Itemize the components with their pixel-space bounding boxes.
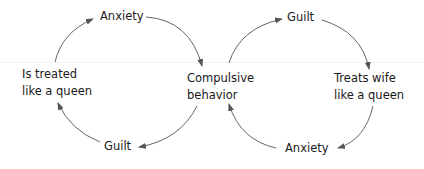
arrow-guilt-to-queen xyxy=(58,103,100,142)
node-guilt-left: Guilt xyxy=(104,138,131,155)
node-is-treated-line2: like a queen xyxy=(22,83,92,100)
causal-loop-diagram: Anxiety Is treated like a queen Guilt Co… xyxy=(0,0,424,169)
arrow-anxiety-to-compulsive-right xyxy=(229,104,276,148)
node-is-treated-like-a-queen: Is treated like a queen xyxy=(22,66,92,100)
node-anxiety-right: Anxiety xyxy=(285,140,329,157)
node-treats-wife-like-a-queen: Treats wife like a queen xyxy=(334,70,404,104)
node-guilt-right: Guilt xyxy=(287,9,314,26)
node-anxiety-left: Anxiety xyxy=(100,8,144,25)
node-treats-wife-line1: Treats wife xyxy=(334,70,404,87)
arrow-compulsive-to-guilt-left xyxy=(139,106,197,147)
node-is-treated-line1: Is treated xyxy=(22,66,92,83)
arrow-treats-wife-to-anxiety xyxy=(338,106,373,148)
node-treats-wife-line2: like a queen xyxy=(334,87,404,104)
arrow-compulsive-to-guilt-right xyxy=(229,19,282,63)
arrow-guilt-to-treats-wife xyxy=(322,20,369,69)
node-compulsive-behavior: Compulsive behavior xyxy=(187,70,254,104)
arrow-anxiety-to-compulsive xyxy=(146,17,202,66)
node-compulsive-line1: Compulsive xyxy=(187,70,254,87)
arrow-queen-to-anxiety xyxy=(55,19,93,62)
node-compulsive-line2: behavior xyxy=(187,87,254,104)
